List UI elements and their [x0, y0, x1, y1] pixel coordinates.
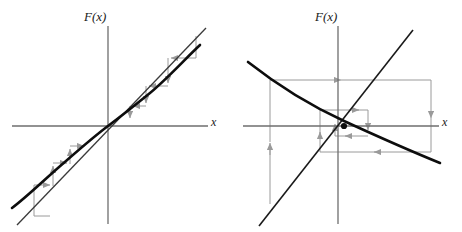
- cobweb-path-right: [270, 80, 431, 204]
- x-axis-label: x: [211, 116, 216, 128]
- panel-decreasing-map: F(x) x: [231, 0, 462, 232]
- panel-increasing-map: F(x) x: [0, 0, 231, 232]
- figure-canvas: F(x) x: [0, 0, 462, 232]
- y-axis-label: F(x): [84, 10, 106, 23]
- diagonal-line-identity: [259, 30, 413, 226]
- y-axis-label: F(x): [315, 10, 337, 23]
- axes-right: [243, 26, 439, 224]
- left-panel-plot: [0, 0, 231, 232]
- function-curve-decreasing: [248, 62, 440, 163]
- right-panel-plot: [231, 0, 462, 232]
- x-axis-label: x: [442, 116, 447, 128]
- fixed-point-marker: [341, 123, 347, 129]
